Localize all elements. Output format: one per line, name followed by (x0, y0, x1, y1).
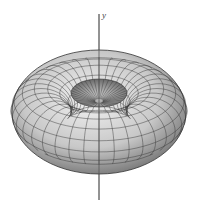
y-axis-label: y (102, 10, 106, 20)
torus-plot (0, 0, 199, 204)
